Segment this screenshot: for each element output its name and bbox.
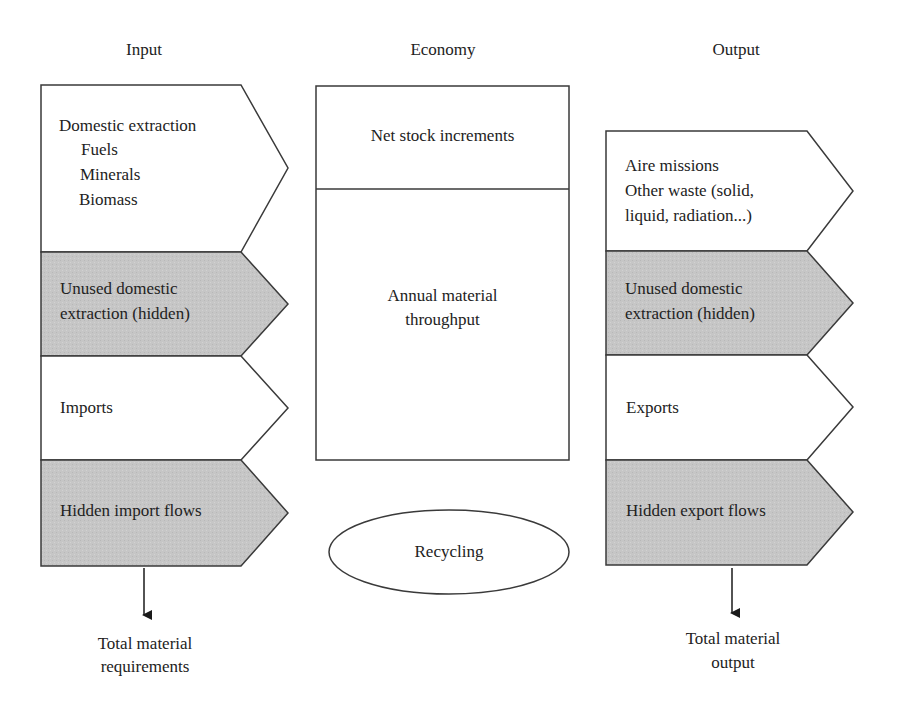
input-minerals-label: Minerals <box>80 164 140 185</box>
output-other-waste-label-2: liquid, radiation...) <box>625 205 752 226</box>
diagram-canvas <box>0 0 899 708</box>
output-column-shapes <box>606 131 853 613</box>
output-total-label-2: output <box>648 652 818 673</box>
input-unused-domestic-label-1: Unused domestic <box>60 278 178 299</box>
input-total-label-1: Total material <box>60 633 230 654</box>
output-hidden-exports-label: Hidden export flows <box>626 500 766 521</box>
input-column-shapes <box>41 85 288 615</box>
header-output: Output <box>636 40 836 60</box>
recycling-label: Recycling <box>329 541 569 562</box>
input-fuels-label: Fuels <box>81 139 118 160</box>
input-total-label-2: requirements <box>60 656 230 677</box>
output-total-label-1: Total material <box>648 628 818 649</box>
output-exports-label: Exports <box>626 397 679 418</box>
net-stock-increments-label: Net stock increments <box>316 125 569 146</box>
output-unused-domestic-label-1: Unused domestic <box>625 278 743 299</box>
output-unused-domestic-label-2: extraction (hidden) <box>625 303 755 324</box>
input-block-domestic-extraction <box>41 85 288 252</box>
input-imports-label: Imports <box>60 397 113 418</box>
output-other-waste-label-1: Other waste (solid, <box>625 180 754 201</box>
header-economy: Economy <box>343 40 543 60</box>
header-input: Input <box>44 40 244 60</box>
input-hidden-imports-label: Hidden import flows <box>60 500 202 521</box>
input-domestic-extraction-label: Domestic extraction <box>59 115 196 136</box>
economy-column-shapes <box>316 86 569 594</box>
output-air-emissions-label: Aire missions <box>625 155 719 176</box>
annual-throughput-label-1: Annual material <box>316 285 569 306</box>
input-biomass-label: Biomass <box>79 189 138 210</box>
input-unused-domestic-label-2: extraction (hidden) <box>60 303 190 324</box>
annual-throughput-label-2: throughput <box>316 309 569 330</box>
